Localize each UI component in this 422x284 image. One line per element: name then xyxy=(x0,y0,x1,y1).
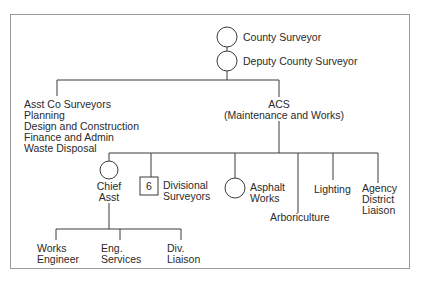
chief-asst-label: Chief Asst xyxy=(89,181,129,203)
works-engineer-label: Works Engineer xyxy=(37,243,79,265)
chief-asst-circle-icon xyxy=(100,161,118,179)
deputy-circle-icon xyxy=(217,51,237,71)
arboriculture-label: Arboriculture xyxy=(270,212,330,223)
asphalt-circle-icon xyxy=(225,178,245,198)
lighting-label: Lighting xyxy=(314,184,351,195)
we-line: Engineer xyxy=(37,254,79,265)
divisional-line: Surveyors xyxy=(163,191,210,202)
county-surveyor-label: County Surveyor xyxy=(243,32,321,43)
chief-line: Asst xyxy=(89,192,129,203)
div-liaison-label: Div. Liaison xyxy=(167,243,200,265)
asst-list: Asst Co Surveyors Planning Design and Co… xyxy=(24,99,139,154)
deputy-label: Deputy County Surveyor xyxy=(243,56,357,67)
divisional-label: Divisional Surveyors xyxy=(163,180,210,202)
asphalt-label: Asphalt Works xyxy=(250,182,285,204)
asst-item: Waste Disposal xyxy=(24,143,139,154)
county-surveyor-circle-icon xyxy=(217,27,237,47)
dl-line: Liaison xyxy=(167,254,200,265)
divisional-count: 6 xyxy=(140,181,158,192)
asphalt-line: Works xyxy=(250,193,285,204)
eng-services-label: Eng. Services xyxy=(101,243,141,265)
acs-line: (Maintenance and Works) xyxy=(224,110,334,121)
agency-line: Liaison xyxy=(362,205,397,216)
es-line: Services xyxy=(101,254,141,265)
acs-label: ACS (Maintenance and Works) xyxy=(224,99,334,121)
agency-label: Agency District Liaison xyxy=(362,183,397,216)
